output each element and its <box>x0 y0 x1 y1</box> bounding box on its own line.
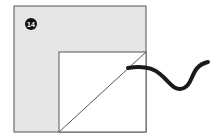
step-badge: 14 <box>25 18 37 30</box>
diagram: 14 <box>0 0 223 139</box>
step-number: 14 <box>27 21 35 28</box>
